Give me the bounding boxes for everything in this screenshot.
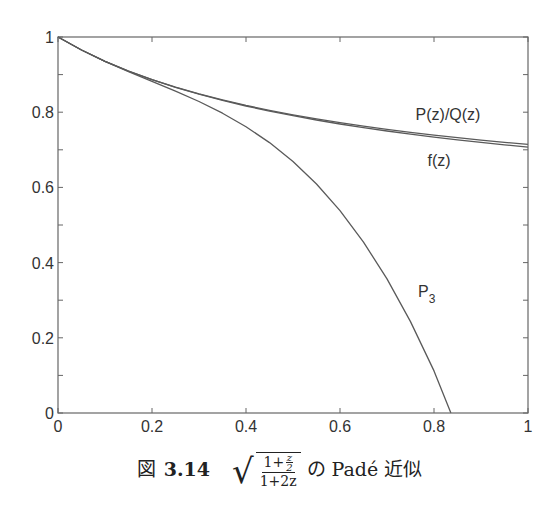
numerator-lead: 1+ — [264, 454, 285, 471]
curve-f-z — [58, 37, 528, 147]
fraction-denominator: 1+2z — [258, 473, 299, 490]
plot-curves — [58, 37, 528, 413]
plot-frame — [58, 37, 528, 413]
figure-word: 図 — [137, 458, 156, 480]
caption-suffix: の Padé 近似 — [307, 458, 423, 480]
figure-number: 3.14 — [164, 458, 210, 480]
fraction-numerator: 1+z2 — [262, 453, 295, 473]
y-tick-label: 0.6 — [32, 179, 54, 196]
x-tick-label: 0.4 — [235, 418, 257, 435]
y-tick-label: 0 — [45, 405, 54, 422]
curve-label: P(z)/Q(z) — [416, 106, 481, 123]
curve-label-p3: P3 — [418, 283, 436, 306]
y-tick-label: 0.4 — [32, 255, 54, 272]
sqrt-formula: √1+z21+2z — [232, 452, 301, 490]
x-tick-label: 0 — [54, 418, 63, 435]
axis-ticks — [58, 37, 528, 413]
fraction: 1+z21+2z — [256, 452, 301, 490]
x-tick-label: 0.2 — [141, 418, 163, 435]
x-tick-label: 1 — [524, 418, 533, 435]
y-tick-label: 0.8 — [32, 104, 54, 121]
curve-label: f(z) — [427, 152, 450, 169]
curve-p3 — [58, 37, 451, 413]
curve-p-z-q-z — [58, 37, 528, 144]
figure-caption: 図3.14√1+z21+2zの Padé 近似 — [0, 452, 559, 490]
inner-fraction: z2 — [286, 453, 292, 472]
radical-sign: √ — [232, 451, 254, 491]
x-tick-label: 0.8 — [423, 418, 445, 435]
pade-approximation-chart: 00.20.40.60.8100.20.40.60.81 P(z)/Q(z)f(… — [0, 0, 559, 445]
x-tick-label: 0.6 — [329, 418, 351, 435]
y-tick-label: 1 — [45, 29, 54, 46]
y-tick-label: 0.2 — [32, 330, 54, 347]
inner-fraction-bottom: 2 — [286, 463, 292, 472]
tick-labels: 00.20.40.60.8100.20.40.60.81 — [32, 29, 533, 435]
